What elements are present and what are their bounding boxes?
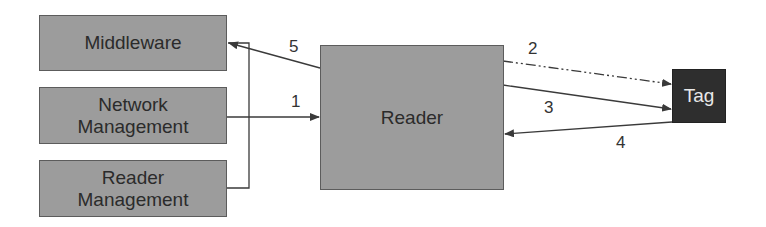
reader-label: Reader — [381, 107, 443, 129]
middleware-node: Middleware — [39, 15, 227, 71]
edge-1-label: 1 — [291, 92, 300, 112]
network-management-node: Network Management — [39, 87, 227, 144]
reader-node: Reader — [320, 45, 504, 190]
edge-2-arrow — [503, 61, 671, 84]
left-bus-connector — [226, 43, 249, 188]
middleware-label: Middleware — [84, 32, 181, 54]
edge-2-label: 2 — [528, 39, 537, 59]
edge-3-arrow — [503, 85, 671, 109]
edge-5-label: 5 — [289, 37, 298, 57]
reader-management-label-line1: Reader — [102, 167, 164, 189]
tag-node: Tag — [672, 69, 726, 123]
edge-3-label: 3 — [544, 98, 553, 118]
network-management-label-line2: Management — [78, 116, 189, 138]
edge-4-arrow — [505, 122, 672, 134]
reader-management-label-line2: Management — [78, 189, 189, 211]
edge-4-label: 4 — [616, 133, 625, 153]
reader-management-node: Reader Management — [39, 160, 227, 217]
edge-5-arrow — [229, 43, 320, 68]
tag-label: Tag — [684, 85, 715, 107]
network-management-label-line1: Network — [98, 94, 168, 116]
